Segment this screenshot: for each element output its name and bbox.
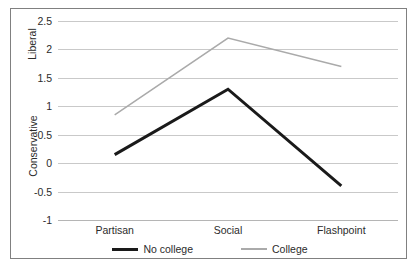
legend-item[interactable]: No college (112, 243, 193, 255)
y-tick-label: 2 (6, 44, 52, 55)
y-tick-label: 1 (6, 101, 52, 112)
y-tick-label: 0.5 (6, 129, 52, 140)
legend-line-swatch-icon (112, 248, 138, 251)
plot-area (58, 21, 398, 220)
legend-item[interactable]: College (241, 243, 308, 255)
y-tick-label: 1.5 (6, 73, 52, 84)
y-tick-label: -0.5 (6, 186, 52, 197)
y-tick-label: 2.5 (6, 16, 52, 27)
legend-item-label: No college (143, 243, 193, 255)
legend-item-label: College (272, 243, 308, 255)
x-tick-label: Social (214, 224, 243, 236)
chart-legend: No collegeCollege (0, 243, 420, 255)
y-axis-tick-labels: 2.521.510.50-0.5-1 (0, 21, 52, 220)
y-tick-label: 0 (6, 158, 52, 169)
y-tick-label: -1 (6, 215, 52, 226)
line-chart: Liberal Conservative 2.521.510.50-0.5-1 … (0, 0, 420, 269)
x-tick-label: Partisan (95, 224, 134, 236)
series-line (115, 89, 342, 186)
x-tick-label: Flashpoint (317, 224, 365, 236)
gridline (58, 220, 398, 221)
legend-line-swatch-icon (241, 248, 267, 250)
series-line (115, 38, 342, 115)
series-lines (58, 21, 398, 220)
